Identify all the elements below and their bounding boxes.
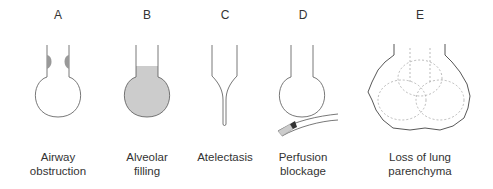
panel-a: A Airway obstruction bbox=[18, 0, 98, 189]
panel-caption: Loss of lung parenchyma bbox=[374, 150, 466, 178]
panel-b: B Alveolar filling bbox=[107, 0, 187, 189]
panel-letter: B bbox=[107, 8, 187, 22]
panel-caption: Atelectasis bbox=[185, 150, 265, 164]
panel-letter: D bbox=[263, 8, 343, 22]
panel-e: E Loss of lung parenchyma bbox=[374, 0, 466, 189]
panel-d: D Perfusion blockage bbox=[263, 0, 343, 189]
panel-c: C Atelectasis bbox=[185, 0, 265, 189]
panel-letter: E bbox=[374, 8, 466, 22]
panel-letter: A bbox=[18, 8, 98, 22]
panel-caption: Perfusion blockage bbox=[263, 150, 343, 178]
panel-letter: C bbox=[185, 8, 265, 22]
panel-caption: Airway obstruction bbox=[18, 150, 98, 178]
panel-caption: Alveolar filling bbox=[107, 150, 187, 178]
